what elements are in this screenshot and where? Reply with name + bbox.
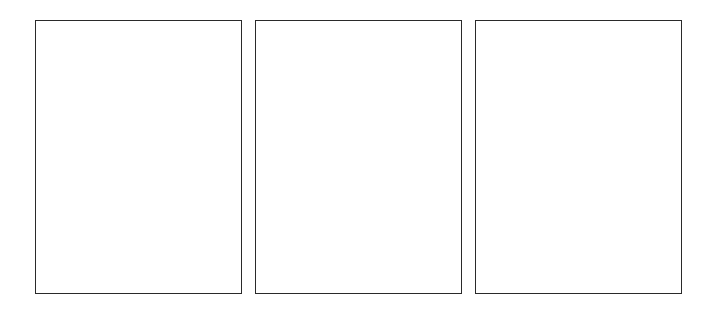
empty-panel-2	[255, 20, 462, 294]
empty-panel-1	[35, 20, 242, 294]
empty-panel-3	[475, 20, 682, 294]
